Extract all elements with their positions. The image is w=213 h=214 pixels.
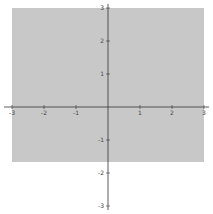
- y-tick-label: 1: [100, 70, 104, 77]
- x-tick-label: 3: [202, 109, 206, 116]
- y-tick-label: 2: [100, 37, 104, 44]
- x-tick-label: -3: [9, 109, 15, 116]
- y-tick-label: -3: [98, 202, 104, 209]
- x-tick-label: 2: [170, 109, 174, 116]
- x-tick-label: -1: [73, 109, 79, 116]
- y-tick-label: -2: [98, 169, 104, 176]
- coordinate-plane: -3 -2 -1 1 2 3 3 2 1 -1 -2 -3: [0, 0, 213, 214]
- x-tick-label: -2: [41, 109, 47, 116]
- x-tick-label: 1: [138, 109, 142, 116]
- y-tick-label: 3: [100, 4, 104, 11]
- y-tick-label: -1: [98, 136, 104, 143]
